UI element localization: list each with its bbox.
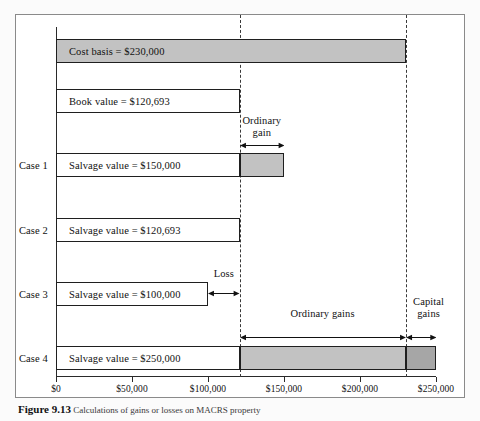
tick-label-150000: $150,000 xyxy=(266,384,302,394)
arrow-ordinary-gains xyxy=(240,333,406,342)
segment-ordinary-gain-case-1[interactable] xyxy=(240,153,285,177)
bar-label-book-value: Book value = $120,693 xyxy=(69,96,170,107)
bar-label-case-4: Salvage value = $250,000 xyxy=(69,353,181,364)
case-label-case-1: Case 1 xyxy=(19,160,48,171)
figure-caption: Figure 9.13 Calculations of gains or los… xyxy=(18,404,468,416)
segment-capital-gains-case-4[interactable] xyxy=(406,346,436,370)
bar-label-case-1: Salvage value = $150,000 xyxy=(69,160,181,171)
bar-case-1[interactable]: Salvage value = $150,000 xyxy=(56,153,240,177)
bar-case-2[interactable]: Salvage value = $120,693 xyxy=(56,218,240,242)
tick-label-100000: $100,000 xyxy=(190,384,226,394)
tick-label-200000: $200,000 xyxy=(342,384,378,394)
segment-ordinary-gains-case-4[interactable] xyxy=(240,346,406,370)
case-label-case-2: Case 2 xyxy=(19,225,48,236)
tick-mark-200000 xyxy=(360,377,361,382)
figure-caption-label: Figure 9.13 xyxy=(18,404,71,415)
tick-mark-0 xyxy=(56,377,57,382)
tick-mark-150000 xyxy=(284,377,285,382)
bar-label-cost-basis: Cost basis = $230,000 xyxy=(69,46,165,57)
annotation-ordinary-gains: Ordinary gains xyxy=(240,308,406,320)
bar-label-case-2: Salvage value = $120,693 xyxy=(69,225,181,236)
tick-label-50000: $50,000 xyxy=(116,384,148,394)
bar-case-4[interactable]: Salvage value = $250,000 xyxy=(56,346,240,370)
bar-cost-basis[interactable]: Cost basis = $230,000 xyxy=(56,39,406,63)
annotation-ordinary-gain: Ordinary gain xyxy=(240,115,285,138)
ref-line-cost-basis xyxy=(406,15,407,377)
annotation-ordinary-gains-line1: Ordinary gains xyxy=(291,308,355,319)
arrow-ordinary-gain xyxy=(240,141,285,150)
ref-line-book-value xyxy=(240,15,241,377)
bar-book-value[interactable]: Book value = $120,693 xyxy=(56,89,240,113)
plot-area: Cost basis = $230,000 Book value = $120,… xyxy=(56,27,451,377)
tick-mark-50000 xyxy=(132,377,133,382)
arrow-loss xyxy=(208,289,240,298)
annotation-capital-gains: Capital gains xyxy=(406,296,452,319)
case-label-case-4: Case 4 xyxy=(19,353,48,364)
annotation-capital-gains-line2: gains xyxy=(417,308,440,319)
annotation-loss-line1: Loss xyxy=(214,268,234,279)
tick-mark-100000 xyxy=(208,377,209,382)
annotation-loss: Loss xyxy=(208,268,240,280)
arrow-capital-gains xyxy=(406,333,436,342)
figure-root: Cost basis = $230,000 Book value = $120,… xyxy=(0,0,480,421)
tick-label-250000: $250,000 xyxy=(418,384,454,394)
annotation-capital-gains-line1: Capital xyxy=(413,296,444,307)
bar-case-3[interactable]: Salvage value = $100,000 xyxy=(56,282,208,306)
tick-mark-250000 xyxy=(436,377,437,382)
x-axis-line xyxy=(56,376,436,377)
bar-label-case-3: Salvage value = $100,000 xyxy=(69,289,181,300)
chart-frame: Cost basis = $230,000 Book value = $120,… xyxy=(15,14,465,398)
tick-label-0: $0 xyxy=(51,384,61,394)
annotation-ordinary-gain-line2: gain xyxy=(253,127,271,138)
y-axis-line xyxy=(56,27,57,377)
figure-caption-text: Calculations of gains or losses on MACRS… xyxy=(73,405,260,415)
case-label-case-3: Case 3 xyxy=(19,289,48,300)
annotation-ordinary-gain-line1: Ordinary xyxy=(242,115,281,126)
